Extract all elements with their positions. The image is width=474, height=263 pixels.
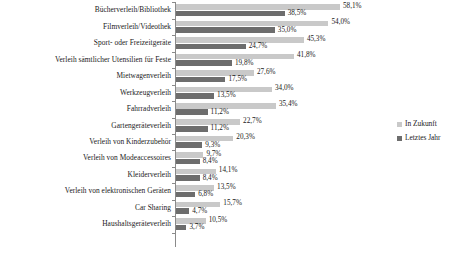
bar-letztes-jahr	[176, 225, 186, 231]
category-label: Verleih sämtlicher Utensilien für Feste	[2, 52, 174, 68]
chart-category-row: Kleiderverleih14,1%8,4%	[0, 167, 474, 183]
bar-value-in-zukunft: 20,3%	[236, 134, 255, 141]
chart-category-row: Verleih von elektronischen Geräten13,5%6…	[0, 183, 474, 199]
bar-letztes-jahr	[176, 11, 285, 17]
bar-letztes-jahr	[176, 192, 195, 198]
bar-value-letztes-jahr: 6,8%	[198, 191, 213, 198]
chart-category-row: Bücherverleih/Bibliothek58,1%38,5%	[0, 2, 474, 18]
bar-value-letztes-jahr: 9,3%	[205, 142, 220, 149]
bar-letztes-jahr	[176, 126, 208, 132]
bar-value-letztes-jahr: 17,5%	[228, 76, 247, 83]
bar-chart: Bücherverleih/Bibliothek58,1%38,5%Filmve…	[0, 0, 474, 263]
category-label: Kleiderverleih	[2, 167, 174, 183]
bar-value-letztes-jahr: 35,0%	[278, 27, 297, 34]
bar-letztes-jahr	[176, 77, 225, 83]
bar-value-in-zukunft: 27,6%	[257, 69, 276, 76]
category-label: Verleih von Modeaccessoires	[2, 150, 174, 166]
bar-value-letztes-jahr: 38,5%	[288, 10, 307, 17]
bar-value-in-zukunft: 35,4%	[279, 101, 298, 108]
bar-letztes-jahr	[176, 175, 200, 181]
chart-category-row: Haushaltsgeräteverleih10,5%3,7%	[0, 216, 474, 232]
bar-value-letztes-jahr: 8,4%	[203, 175, 218, 182]
chart-category-row: Car Sharing15,7%4,7%	[0, 200, 474, 216]
category-label: Gartengeräteverleih	[2, 118, 174, 134]
chart-category-row: Filmverleih/Videothek54,0%35,0%	[0, 19, 474, 35]
bar-value-letztes-jahr: 13,5%	[217, 92, 236, 99]
bar-value-letztes-jahr: 11,2%	[211, 125, 229, 132]
bar-value-in-zukunft: 10,5%	[209, 217, 228, 224]
chart-category-row: Sport- oder Freizeitgeräte45,3%24,7%	[0, 35, 474, 51]
chart-category-row: Verleih sämtlicher Utensilien für Feste4…	[0, 52, 474, 68]
category-label: Fahrradverleih	[2, 101, 174, 117]
legend-swatch-icon	[397, 122, 402, 127]
bar-value-in-zukunft: 22,7%	[243, 118, 262, 125]
legend-label: Letztes Jahr	[405, 134, 441, 142]
bar-value-in-zukunft: 58,1%	[343, 3, 362, 10]
category-label: Haushaltsgeräteverleih	[2, 216, 174, 232]
chart-legend: In ZukunftLetztes Jahr	[397, 118, 441, 146]
bar-value-letztes-jahr: 24,7%	[249, 43, 268, 50]
chart-category-row: Mietwagenverleih27,6%17,5%	[0, 68, 474, 84]
legend-item[interactable]: In Zukunft	[397, 118, 441, 130]
category-label: Sport- oder Freizeitgeräte	[2, 35, 174, 51]
bar-in-zukunft	[176, 152, 203, 158]
bar-in-zukunft	[176, 37, 304, 43]
bar-value-in-zukunft: 13,5%	[217, 184, 236, 191]
bar-in-zukunft	[176, 119, 240, 125]
bar-letztes-jahr	[176, 27, 275, 33]
chart-category-row: Werkzeugverleih34,0%13,5%	[0, 85, 474, 101]
bar-letztes-jahr	[176, 109, 208, 115]
bar-letztes-jahr	[176, 142, 202, 148]
category-label: Filmverleih/Videothek	[2, 19, 174, 35]
bar-letztes-jahr	[176, 60, 232, 66]
legend-label: In Zukunft	[405, 120, 437, 128]
bar-letztes-jahr	[176, 159, 200, 165]
category-label: Verleih von Kinderzubehör	[2, 134, 174, 150]
category-label: Verleih von elektronischen Geräten	[2, 183, 174, 199]
bar-in-zukunft	[176, 4, 340, 10]
bar-value-in-zukunft: 15,7%	[223, 200, 242, 207]
category-axis-tick	[172, 233, 175, 234]
bar-letztes-jahr	[176, 44, 246, 50]
bar-value-letztes-jahr: 19,8%	[235, 60, 254, 67]
bar-letztes-jahr	[176, 93, 214, 99]
chart-category-row: Fahrradverleih35,4%11,2%	[0, 101, 474, 117]
bar-in-zukunft	[176, 21, 328, 27]
legend-swatch-icon	[397, 136, 402, 141]
bar-value-letztes-jahr: 3,7%	[189, 224, 204, 231]
bar-value-in-zukunft: 34,0%	[275, 85, 294, 92]
bar-value-in-zukunft: 14,1%	[219, 167, 238, 174]
bar-value-in-zukunft: 45,3%	[307, 36, 326, 43]
category-axis-tick	[172, 2, 175, 3]
bar-value-letztes-jahr: 11,2%	[211, 109, 229, 116]
bar-value-letztes-jahr: 4,7%	[192, 208, 207, 215]
category-label: Mietwagenverleih	[2, 68, 174, 84]
category-label: Werkzeugverleih	[2, 85, 174, 101]
category-label: Bücherverleih/Bibliothek	[2, 2, 174, 18]
legend-item[interactable]: Letztes Jahr	[397, 132, 441, 144]
bar-letztes-jahr	[176, 208, 189, 214]
category-label: Car Sharing	[2, 200, 174, 216]
bar-value-in-zukunft: 41,8%	[297, 52, 316, 59]
bar-value-letztes-jahr: 8,4%	[203, 158, 218, 165]
chart-category-row: Verleih von Modeaccessoires9,7%8,4%	[0, 150, 474, 166]
bar-value-in-zukunft: 54,0%	[331, 19, 350, 26]
